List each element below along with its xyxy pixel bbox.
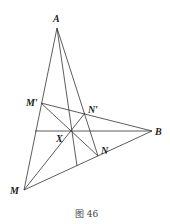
- segment-m-nprime: [24, 113, 85, 190]
- label-x: X: [55, 133, 63, 144]
- label-a: A: [52, 13, 60, 24]
- segment-a-foot: [57, 28, 77, 166]
- geometry-figure: A B M M′ N′ N X 图 46: [0, 0, 170, 224]
- segment-m-b: [24, 131, 152, 190]
- label-b: B: [154, 126, 162, 137]
- label-m-prime: M′: [25, 97, 38, 108]
- label-m: M: [9, 185, 20, 196]
- segment-a-m: [24, 28, 57, 190]
- label-n-prime: N′: [87, 104, 98, 115]
- label-n: N: [100, 145, 109, 156]
- figure-caption: 图 46: [75, 209, 99, 219]
